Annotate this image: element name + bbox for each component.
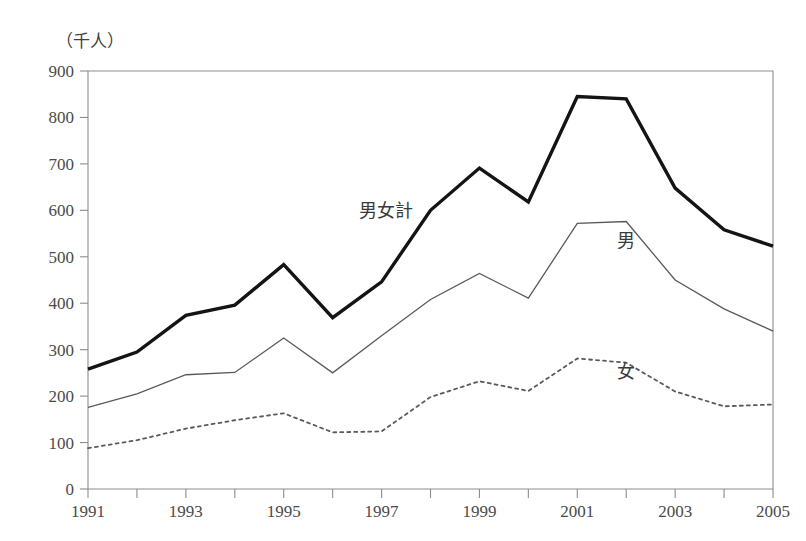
y-tick-label: 500 xyxy=(49,248,75,267)
y-axis-tick-labels: 0100200300400500600700800900 xyxy=(49,62,75,499)
y-tick-label: 400 xyxy=(49,294,75,313)
x-axis-ticks xyxy=(88,489,773,498)
x-tick-label: 1993 xyxy=(169,502,203,521)
y-tick-label: 900 xyxy=(49,62,75,81)
axes-group xyxy=(80,71,773,498)
chart-container: （千人） 0100200300400500600700800900 199119… xyxy=(0,0,806,541)
y-tick-label: 300 xyxy=(49,341,75,360)
x-tick-label: 1991 xyxy=(71,502,105,521)
x-tick-label: 1997 xyxy=(365,502,400,521)
series-label: 男 xyxy=(617,230,635,251)
x-tick-label: 1999 xyxy=(462,502,496,521)
x-tick-label: 2001 xyxy=(560,502,594,521)
y-axis-ticks xyxy=(80,71,88,489)
y-tick-label: 600 xyxy=(49,201,75,220)
axis-frame xyxy=(88,71,773,489)
y-tick-label: 200 xyxy=(49,387,75,406)
line-chart-svg: 0100200300400500600700800900 19911993199… xyxy=(0,0,806,541)
data-series-group xyxy=(88,97,773,449)
y-tick-label: 800 xyxy=(49,108,75,127)
series-label: 男女計 xyxy=(359,200,413,221)
y-tick-label: 0 xyxy=(66,480,75,499)
series-label: 女 xyxy=(617,361,635,382)
x-tick-label: 2003 xyxy=(658,502,692,521)
series-line xyxy=(88,97,773,370)
x-tick-label: 2005 xyxy=(756,502,790,521)
series-line xyxy=(88,358,773,448)
series-annotation-labels: 男女計男女 xyxy=(359,200,635,381)
x-axis-tick-labels: 19911993199519971999200120032005 xyxy=(71,502,790,521)
y-tick-label: 100 xyxy=(49,434,75,453)
y-tick-label: 700 xyxy=(49,155,75,174)
x-tick-label: 1995 xyxy=(267,502,301,521)
